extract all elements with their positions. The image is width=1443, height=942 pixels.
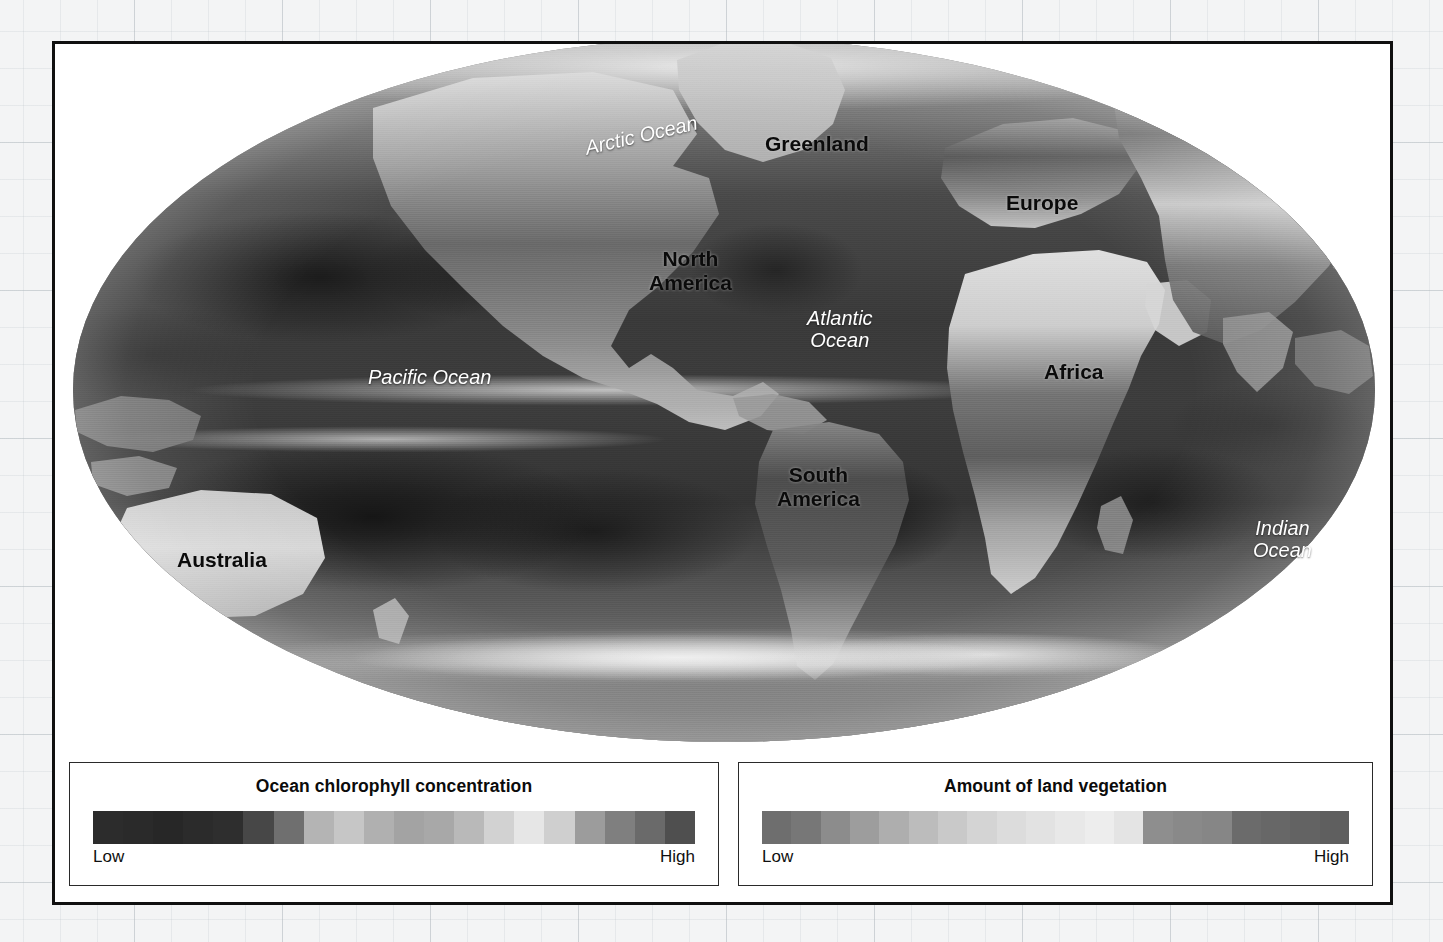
legend-swatch	[1173, 811, 1202, 844]
legend-swatch	[1232, 811, 1261, 844]
legend-swatch	[1290, 811, 1319, 844]
legend-swatch	[364, 811, 394, 844]
legend-title-land-vegetation: Amount of land vegetation	[739, 776, 1372, 797]
globe-mollweide-projection	[73, 44, 1375, 742]
legend-swatch	[424, 811, 454, 844]
legend-swatch	[575, 811, 605, 844]
legend-high-label: High	[1314, 847, 1349, 867]
globe-edge-fade	[73, 44, 1375, 742]
legend-swatch	[1261, 811, 1290, 844]
legend-swatch	[997, 811, 1026, 844]
legend-endpoints-land-vegetation: LowHigh	[762, 847, 1349, 867]
legend-swatch	[821, 811, 850, 844]
legend-swatch	[635, 811, 665, 844]
legend-swatch	[394, 811, 424, 844]
legend-swatch	[484, 811, 514, 844]
legend-swatch	[1085, 811, 1114, 844]
legend-swatch	[183, 811, 213, 844]
legend-swatch	[1143, 811, 1172, 844]
legend-swatch	[514, 811, 544, 844]
world-map: Arctic OceanGreenlandEuropeNorth America…	[55, 44, 1390, 744]
legend-swatch	[605, 811, 635, 844]
legend-swatch	[213, 811, 243, 844]
legend-swatch	[304, 811, 334, 844]
legend-swatch	[909, 811, 938, 844]
legend-ocean-chlorophyll: Ocean chlorophyll concentrationLowHigh	[69, 762, 719, 886]
figure-frame: Arctic OceanGreenlandEuropeNorth America…	[52, 41, 1393, 905]
legend-swatch	[850, 811, 879, 844]
legend-land-vegetation: Amount of land vegetationLowHigh	[738, 762, 1373, 886]
legend-swatch	[1202, 811, 1231, 844]
legend-swatch	[334, 811, 364, 844]
legend-swatch	[762, 811, 791, 844]
legend-swatch	[1114, 811, 1143, 844]
legend-swatch	[544, 811, 574, 844]
legend-swatch	[454, 811, 484, 844]
legend-colorbar-land-vegetation	[762, 811, 1349, 844]
legend-high-label: High	[660, 847, 695, 867]
legend-low-label: Low	[762, 847, 793, 867]
legend-endpoints-ocean-chlorophyll: LowHigh	[93, 847, 695, 867]
legend-swatch	[1055, 811, 1084, 844]
legend-swatch	[938, 811, 967, 844]
legend-swatch	[123, 811, 153, 844]
legend-swatch	[879, 811, 908, 844]
legend-colorbar-ocean-chlorophyll	[93, 811, 695, 844]
legend-swatch	[243, 811, 273, 844]
legend-swatch	[1320, 811, 1349, 844]
legend-low-label: Low	[93, 847, 124, 867]
legend-swatch	[274, 811, 304, 844]
legend-swatch	[791, 811, 820, 844]
legend-swatch	[93, 811, 123, 844]
legend-swatch	[153, 811, 183, 844]
legend-swatch	[967, 811, 996, 844]
legend-title-ocean-chlorophyll: Ocean chlorophyll concentration	[70, 776, 718, 797]
legend-swatch	[665, 811, 695, 844]
legend-swatch	[1026, 811, 1055, 844]
